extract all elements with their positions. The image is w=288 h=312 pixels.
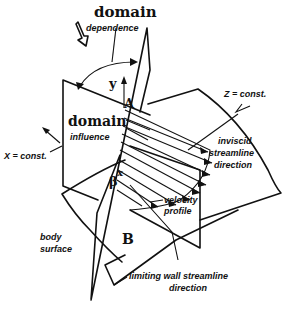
inviscid-label-line1: inviscid [218, 136, 252, 146]
dependence-leader [112, 28, 116, 62]
x-const-leader [50, 146, 62, 152]
dependence-label: dependence [86, 23, 139, 33]
z-const-label: Z = const. [223, 89, 266, 99]
x-axis-label: x [117, 167, 124, 178]
y-axis-label: y [108, 76, 117, 91]
z-const-arrow [236, 104, 250, 112]
velocity-leader [150, 200, 163, 202]
dependence-arc [80, 62, 135, 86]
beta-angle-label: β [109, 174, 118, 189]
y-axis-arrowhead [121, 76, 127, 84]
domain-influence-title: domain [68, 113, 127, 129]
limiting-leader [114, 277, 127, 285]
inviscid-label-line2: streamline [209, 148, 254, 158]
domain-dependence-title: domain [94, 3, 157, 21]
boundary-layer-diagram: domain dependence domain influence Z = c… [0, 0, 288, 312]
x-const-label: X = const. [3, 151, 47, 161]
body-label-line2: surface [40, 244, 72, 254]
limiting-label-line2: direction [169, 283, 208, 293]
point-a-label: A [123, 96, 135, 111]
influence-label: influence [70, 132, 110, 142]
velocity-label-line2: profile [163, 206, 192, 216]
arc-arrowhead-right [130, 58, 138, 66]
point-b-label: B [122, 231, 134, 247]
body-label-line1: body [40, 232, 62, 242]
velocity-label-line1: velocity [164, 195, 199, 205]
limiting-label-line1: limiting wall streamline [129, 271, 228, 281]
inviscid-label-line3: direction [214, 160, 253, 170]
